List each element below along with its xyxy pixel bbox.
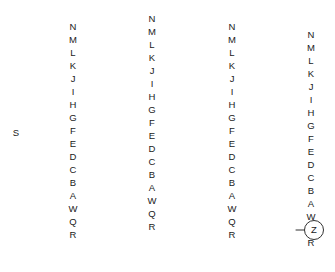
fan-edge-I — [113, 85, 144, 145]
leaf-label-A: A — [149, 182, 156, 193]
fan-group-2: NMLKJIHGFEDCBAWQR — [113, 13, 156, 232]
leaf-label-W: W — [69, 203, 78, 214]
leaf-label-I: I — [151, 78, 154, 89]
fan-edge-J — [113, 72, 144, 145]
fan-edge-A — [193, 134, 224, 195]
leaf-label-C: C — [229, 164, 236, 175]
fan-edge-B — [194, 134, 225, 182]
leaf-label-N: N — [308, 29, 315, 40]
fan-edge-A — [114, 147, 144, 187]
leaf-label-K: K — [308, 68, 315, 79]
fan-edge-M — [113, 33, 144, 145]
fan-edge-R — [193, 134, 224, 234]
sink-node-group[interactable]: Z — [296, 221, 324, 240]
fan-edge-R — [271, 142, 303, 242]
fan-edge-K — [193, 67, 224, 132]
leaf-label-G: G — [148, 104, 155, 115]
leaf-label-C: C — [308, 172, 315, 183]
leaf-label-N: N — [229, 21, 236, 32]
leaf-label-H: H — [229, 99, 236, 110]
fan-edge-I — [272, 101, 303, 140]
leaf-label-L: L — [70, 47, 75, 58]
fan-edge-L — [193, 54, 224, 132]
fan-edge-Q — [193, 134, 224, 221]
leaf-label-B: B — [149, 169, 155, 180]
fan-group-3: NMLKJIHGFEDCBAWQR — [193, 21, 236, 240]
leaf-label-L: L — [229, 47, 234, 58]
fan-edge-F — [32, 131, 65, 133]
leaf-label-F: F — [149, 117, 155, 128]
fan-edge-M — [31, 41, 65, 132]
fan-edge-K — [113, 59, 144, 145]
fan-edge-E — [32, 133, 65, 143]
fan-edge-W — [193, 134, 224, 208]
leaf-label-I: I — [72, 86, 75, 97]
fan-edge-M — [271, 49, 303, 140]
sink-label-Z: Z — [311, 224, 317, 235]
leaf-label-L: L — [308, 55, 313, 66]
leaf-label-R: R — [229, 229, 236, 240]
leaf-label-Q: Q — [69, 216, 76, 227]
fan-edge-L — [271, 62, 303, 140]
fan-edge-H — [194, 106, 224, 132]
leaf-label-K: K — [149, 52, 156, 63]
fan-edge-K — [271, 75, 303, 140]
fan-edge-D — [272, 142, 303, 165]
fan-edge-R — [31, 134, 65, 234]
fan-edge-A — [31, 134, 65, 195]
fan-edge-I — [194, 93, 224, 132]
leaf-label-M: M — [307, 42, 315, 53]
leaf-label-A: A — [70, 190, 77, 201]
fan-edge-E — [194, 133, 224, 143]
fan-edge-H — [32, 106, 65, 132]
fan-edge-B — [32, 134, 66, 182]
fan-edge-K — [31, 67, 65, 132]
fan-group-4: NMLKJIHGFEDCBAWQR — [271, 29, 315, 248]
leaf-label-D: D — [229, 151, 236, 162]
leaf-label-K: K — [70, 60, 77, 71]
leaf-label-W: W — [148, 195, 157, 206]
leaf-label-W: W — [228, 203, 237, 214]
fan-edge-E — [272, 141, 303, 151]
leaf-label-C: C — [70, 164, 77, 175]
fan-edge-Q — [113, 147, 144, 213]
leaf-label-E: E — [308, 146, 314, 157]
diagram-canvas: NMLKJIHGFEDCBAWQRSNMLKJIHGFEDCBAWQRNMLKJ… — [0, 0, 335, 272]
leaf-label-K: K — [229, 60, 236, 71]
fan-edge-B — [114, 147, 144, 174]
fan-edge-A — [271, 142, 303, 203]
fan-edge-G — [114, 111, 144, 145]
fan-edge-N — [271, 36, 303, 140]
leaf-label-I: I — [231, 86, 234, 97]
fan-edge-N — [193, 28, 224, 132]
leaf-label-R: R — [70, 229, 77, 240]
leaf-label-M: M — [148, 26, 156, 37]
leaf-label-G: G — [307, 120, 314, 131]
fan-edge-H — [272, 114, 303, 140]
leaf-label-J: J — [150, 65, 155, 76]
leaf-label-B: B — [308, 185, 314, 196]
fan-edge-C — [114, 146, 144, 161]
leaf-label-D: D — [308, 159, 315, 170]
leaf-label-H: H — [308, 107, 315, 118]
fan-edge-D — [32, 134, 65, 157]
leaf-label-J: J — [230, 73, 235, 84]
leaf-label-B: B — [229, 177, 235, 188]
fan-edge-G — [32, 119, 65, 133]
fan-edge-J — [32, 80, 66, 132]
fan-edge-M — [193, 41, 224, 132]
fan-edge-F — [194, 131, 224, 133]
leaf-label-D: D — [149, 143, 156, 154]
fan-edge-W — [271, 142, 303, 216]
fan-group-1: NMLKJIHGFEDCBAWQRS — [13, 21, 78, 240]
fan-edge-E — [114, 136, 144, 145]
fan-edge-J — [272, 88, 304, 140]
fan-edge-D — [194, 134, 224, 157]
leaf-label-H: H — [149, 91, 156, 102]
leaf-label-M: M — [228, 34, 236, 45]
fan-edge-F — [272, 139, 303, 141]
vertex-label-S: S — [13, 127, 19, 138]
leaf-label-I: I — [310, 94, 313, 105]
fan-edge-W — [31, 134, 65, 208]
fan-edge-N — [31, 28, 65, 132]
